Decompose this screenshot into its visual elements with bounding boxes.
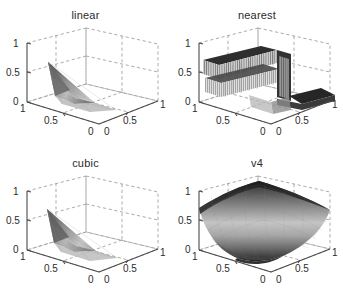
xtick-v4-1: 1 xyxy=(332,247,338,258)
ytick-linear-0: 0 xyxy=(88,126,94,137)
xtick-cubic-1: 1 xyxy=(160,247,166,258)
xtick-nearest-1: 1 xyxy=(332,99,338,110)
ztick-linear-1: 1 xyxy=(13,38,19,49)
surface-v4 xyxy=(199,181,330,264)
plot-axes-nearest xyxy=(171,0,343,148)
panel-nearest: nearest xyxy=(171,0,343,148)
xtick-nearest-0: 0 xyxy=(276,126,282,137)
xtick-v4-05: 0.5 xyxy=(295,263,309,274)
ytick-cubic-0: 0 xyxy=(88,274,94,285)
ytick-v4-05: 0.5 xyxy=(216,263,230,274)
xtick-cubic-05: 0.5 xyxy=(123,263,137,274)
ytick-linear-05: 0.5 xyxy=(44,115,58,126)
ytick-v4-1: 1 xyxy=(192,251,198,262)
ztick-v4-1: 1 xyxy=(185,186,191,197)
surface-cubic xyxy=(47,209,117,261)
xtick-linear-1: 1 xyxy=(160,99,166,110)
ytick-nearest-1: 1 xyxy=(192,103,198,114)
panel-cubic: cubic xyxy=(0,148,171,296)
ztick-nearest-0: 0 xyxy=(185,96,191,107)
surface-nearest xyxy=(203,46,335,114)
ytick-cubic-05: 0.5 xyxy=(44,263,58,274)
panel-v4: v4 xyxy=(171,148,343,296)
ztick-nearest-05: 0.5 xyxy=(178,67,192,78)
ztick-v4-0: 0 xyxy=(185,244,191,255)
ytick-v4-0: 0 xyxy=(260,274,266,285)
ztick-linear-0: 0 xyxy=(13,96,19,107)
ztick-v4-05: 0.5 xyxy=(178,215,192,226)
ytick-linear-1: 1 xyxy=(20,103,26,114)
plot-axes-cubic xyxy=(0,148,171,296)
ztick-cubic-0: 0 xyxy=(13,244,19,255)
xtick-linear-05: 0.5 xyxy=(123,115,137,126)
figure-canvas: linear xyxy=(0,0,343,296)
plot-axes-linear xyxy=(0,0,171,148)
ytick-cubic-1: 1 xyxy=(20,251,26,262)
ztick-cubic-05: 0.5 xyxy=(6,215,20,226)
ztick-cubic-1: 1 xyxy=(13,186,19,197)
ytick-nearest-05: 0.5 xyxy=(216,115,230,126)
xtick-nearest-05: 0.5 xyxy=(295,115,309,126)
panel-linear: linear xyxy=(0,0,171,148)
ztick-linear-05: 0.5 xyxy=(6,67,20,78)
ytick-nearest-0: 0 xyxy=(260,126,266,137)
surface-linear xyxy=(48,62,116,112)
ztick-nearest-1: 1 xyxy=(185,38,191,49)
xtick-v4-0: 0 xyxy=(276,274,282,285)
plot-axes-v4 xyxy=(171,148,343,296)
xtick-linear-0: 0 xyxy=(104,126,110,137)
xtick-cubic-0: 0 xyxy=(104,274,110,285)
